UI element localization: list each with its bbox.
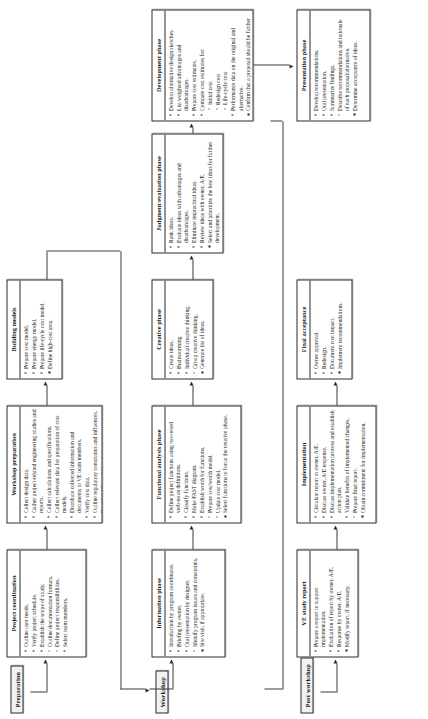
- connector-line: [192, 259, 193, 279]
- list-item: Implement recommendations.: [336, 283, 343, 369]
- list-item: Oral presentation.: [320, 13, 327, 111]
- list-item: Define project responsibilities.: [53, 553, 60, 647]
- connector-line: [270, 120, 282, 121]
- box-body: Collect design data. Gather project-rela…: [20, 406, 103, 522]
- list-item: Update cost model.: [214, 409, 221, 513]
- connector-line: [46, 385, 47, 405]
- box-judgment-evaluation-phase: Judgment/evaluation phase Rank ideas. Ev…: [151, 133, 223, 253]
- bullet-list: Develop recommendations. Oral presentati…: [312, 13, 358, 117]
- list-item: Life-cycle cost: [221, 13, 228, 105]
- list-item: Create ideas.: [167, 283, 174, 369]
- bullet-list: Define project functions using two-word …: [167, 409, 229, 519]
- connector-line: [46, 663, 47, 692]
- box-title: Project coordination: [7, 550, 20, 656]
- diagram-canvas: Preparation Workshop Post workshop Proje…: [0, 0, 428, 719]
- connector-line: [282, 121, 283, 689]
- connector-line: [149, 688, 172, 689]
- connector-arrow-icon: [189, 381, 193, 385]
- lane-label-post-workshop: Post workshop: [300, 657, 313, 713]
- list-item: Determine acceptance of ideas.: [351, 13, 358, 111]
- list-item: Review ideas with owner, A/E.: [198, 137, 205, 243]
- box-body: Define project functions using two-word …: [165, 406, 232, 522]
- list-item: Prepare energy model.: [30, 283, 37, 369]
- bullet-list: Develop alternative design sketches. Lis…: [167, 13, 253, 117]
- box-body: Create ideas. Brainstorming. Individual …: [165, 280, 209, 378]
- box-body: Introduction by program coordinator. Bri…: [165, 550, 209, 656]
- list-item: Prepare life-cycle cost model.: [38, 283, 45, 369]
- connector-line: [192, 385, 193, 405]
- list-item: Outline documentation formats.: [46, 553, 53, 647]
- box-body: Outline user needs. Verify project sched…: [20, 550, 72, 656]
- connector-line: [253, 64, 289, 65]
- connector-arrow-icon: [289, 64, 293, 68]
- box-information-phase: Information phase Introduction by progra…: [151, 549, 225, 657]
- connector-line: [192, 529, 193, 549]
- list-item: Verify project schedule.: [30, 553, 37, 647]
- list-item: Establish VE study location.: [99, 409, 102, 513]
- box-building-models: Building models Prepare cost model. Prep…: [6, 279, 62, 379]
- list-item: Redesign.: [320, 283, 327, 369]
- list-item: Outline regulatory constraints and influ…: [91, 409, 98, 513]
- list-item: Prepare cost/worth model.: [206, 409, 213, 513]
- list-item: Collect design data.: [22, 409, 29, 513]
- list-item: Gather project-related engineering studi…: [30, 409, 45, 513]
- list-item: Develop recommendations.: [312, 13, 319, 111]
- list-item: Performance data on the original and alt…: [229, 13, 244, 111]
- box-implementation: Implementation Circulate report to owner…: [296, 405, 376, 523]
- box-ve-study-report: VE study report Prepare a report to supp…: [296, 549, 358, 657]
- bullet-list: Introduction by program coordinator. Bri…: [167, 553, 206, 653]
- list-item: Confirm that a proposal should be furthe…: [244, 13, 253, 111]
- list-item: List weighted advantages and disadvantag…: [175, 13, 190, 111]
- connector-line: [46, 250, 120, 251]
- connector-arrow-icon: [43, 659, 47, 663]
- list-item: Briefing by owner.: [175, 553, 182, 647]
- list-item: Generate list of ideas.: [198, 283, 205, 369]
- list-item: Modify report, if necessary.: [343, 553, 350, 647]
- connector-arrow-icon: [189, 255, 193, 259]
- list-item: Document cost impact.: [328, 283, 335, 369]
- box-title: Judgment/evaluation phase: [152, 134, 165, 252]
- list-item: Collect relevant data for preparation of…: [53, 409, 68, 513]
- box-title: Workshop preparation: [7, 406, 20, 522]
- box-title: Information phase: [152, 550, 165, 656]
- box-title: Building models: [7, 280, 20, 378]
- box-title: Functional analysis phase: [152, 406, 165, 522]
- box-functional-analysis-phase: Functional analysis phase Define project…: [151, 405, 241, 523]
- list-item: Discuss owner, A/E response.: [320, 409, 327, 513]
- lane-label-workshop: Workshop: [155, 670, 168, 713]
- list-item: Rank ideas.: [167, 137, 174, 243]
- box-title: VE study report: [297, 550, 310, 656]
- bullet-list: Rank ideas. Evaluate ideas with advantag…: [167, 137, 220, 249]
- rotated-diagram: Preparation Workshop Post workshop Proje…: [0, 0, 428, 719]
- list-item: Prepare cost estimates.: [190, 13, 197, 111]
- connector-line: [320, 691, 336, 692]
- list-item: Make FAST diagram.: [190, 409, 197, 513]
- lane-label-preparation: Preparation: [10, 665, 23, 713]
- connector-arrow-icon: [189, 525, 193, 529]
- list-item: Obtain commitment for implementation.: [359, 409, 366, 513]
- connector-arrow-icon: [145, 688, 149, 692]
- box-title: Presentation phase: [297, 10, 310, 120]
- box-title: Creative phase: [152, 280, 165, 378]
- list-item: Group creative thinking.: [191, 283, 198, 369]
- connector-line: [120, 688, 145, 689]
- box-title: Development phase: [152, 10, 165, 120]
- box-body: Develop alternative design sketches. Lis…: [165, 10, 254, 120]
- bullet-list: Owner approval. Redesign. Document cost …: [312, 283, 343, 375]
- connector-line: [336, 385, 337, 405]
- list-item: Select and prioritize the best ideas for…: [206, 137, 221, 243]
- connector-line: [120, 251, 121, 689]
- list-item: Outline user needs.: [22, 553, 29, 647]
- list-item: Verify cost data.: [83, 409, 90, 513]
- box-title: Implementation: [297, 406, 310, 522]
- list-item: Define high-cost area.: [46, 283, 53, 369]
- box-body: Rank ideas. Evaluate ideas with advantag…: [165, 134, 223, 252]
- connector-arrow-icon: [169, 659, 173, 663]
- box-body: Develop recommendations. Oral presentati…: [310, 10, 361, 120]
- list-item: Brainstorming.: [175, 283, 182, 369]
- list-item: Classify functions.: [182, 409, 189, 513]
- box-development-phase: Development phase Develop alternative de…: [151, 9, 253, 121]
- list-item: Describe recommendations and rationale o…: [336, 13, 351, 111]
- bullet-list: Circulate report to owner, A/E. Discuss …: [312, 409, 366, 519]
- connector-line: [192, 127, 193, 133]
